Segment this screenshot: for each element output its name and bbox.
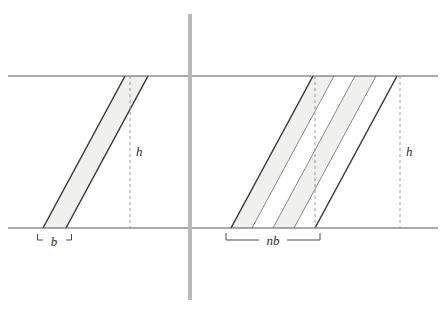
parallelogram-area-diagram: b h nb h bbox=[0, 0, 444, 312]
canvas-background bbox=[0, 0, 444, 312]
diagram-canvas: b h nb h bbox=[0, 0, 444, 312]
left-base-label: b bbox=[51, 234, 58, 249]
right-base-label: nb bbox=[267, 233, 281, 248]
left-height-label: h bbox=[136, 144, 143, 159]
panel-divider-bar bbox=[188, 14, 192, 300]
right-height-label: h bbox=[406, 144, 413, 159]
